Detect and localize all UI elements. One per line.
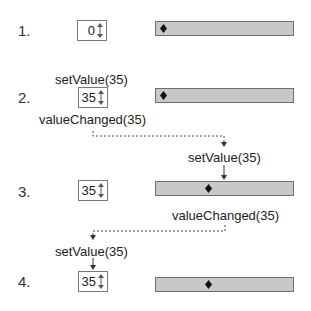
spinbox-value: 35 — [82, 274, 96, 289]
spinbox-step-1[interactable]: 0 — [77, 20, 107, 41]
up-down-arrows-icon[interactable] — [98, 90, 104, 105]
spinbox-value: 35 — [82, 90, 96, 105]
up-down-arrows-icon[interactable] — [98, 183, 104, 198]
step-number-2: 2. — [18, 89, 31, 106]
step-number-3: 3. — [18, 183, 31, 200]
diamond-icon[interactable] — [204, 184, 213, 193]
slider-step-1[interactable] — [155, 21, 294, 36]
spinbox-value: 0 — [88, 23, 95, 38]
step-number-1: 1. — [18, 22, 31, 39]
signal-connectors — [0, 0, 311, 311]
diamond-icon[interactable] — [159, 91, 168, 100]
spinbox-step-2[interactable]: 35 — [78, 87, 108, 108]
value-changed-label-1: valueChanged(35) — [39, 112, 146, 127]
spinbox-step-4[interactable]: 35 — [78, 271, 108, 292]
up-down-arrows-icon[interactable] — [97, 23, 103, 38]
slider-step-2[interactable] — [155, 88, 294, 103]
set-value-label-3: setValue(35) — [55, 244, 128, 259]
set-value-label-2: setValue(35) — [188, 150, 261, 165]
slider-step-4[interactable] — [155, 277, 294, 292]
slider-step-3[interactable] — [155, 181, 294, 196]
up-down-arrows-icon[interactable] — [98, 274, 104, 289]
value-changed-label-2: valueChanged(35) — [172, 208, 279, 223]
diamond-icon[interactable] — [159, 24, 168, 33]
set-value-label-1: setValue(35) — [55, 72, 128, 87]
step-number-4: 4. — [18, 273, 31, 290]
spinbox-step-3[interactable]: 35 — [78, 180, 108, 201]
spinbox-value: 35 — [82, 183, 96, 198]
diamond-icon[interactable] — [204, 280, 213, 289]
